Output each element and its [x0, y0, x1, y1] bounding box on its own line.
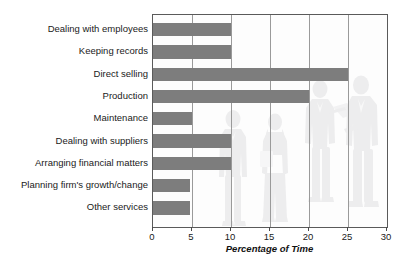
bar [153, 201, 190, 214]
tick-label-25: 25 [342, 231, 353, 242]
bar [153, 112, 192, 125]
category-axis-labels: Dealing with employeesKeeping recordsDir… [0, 14, 148, 226]
plot-area [152, 14, 388, 228]
bar [153, 23, 231, 36]
bar [153, 90, 309, 103]
bar-chart: Dealing with employeesKeeping recordsDir… [0, 0, 404, 259]
category-label: Other services [0, 201, 148, 212]
tick-label-20: 20 [303, 231, 314, 242]
category-label: Direct selling [0, 68, 148, 79]
category-label: Maintenance [0, 112, 148, 123]
tick-label-15: 15 [264, 231, 275, 242]
category-label: Production [0, 90, 148, 101]
x-axis-title: Percentage of Time [152, 243, 387, 254]
category-label: Planning firm's growth/change [0, 179, 148, 190]
bar [153, 157, 231, 170]
tick-label-10: 10 [225, 231, 236, 242]
category-label: Dealing with employees [0, 23, 148, 34]
category-label: Keeping records [0, 45, 148, 56]
bar-series [153, 15, 387, 227]
category-label: Dealing with suppliers [0, 135, 148, 146]
category-label: Arranging financial matters [0, 157, 148, 168]
tick-label-0: 0 [149, 231, 154, 242]
bar [153, 179, 190, 192]
bar [153, 134, 231, 147]
bar [153, 45, 231, 58]
bar [153, 68, 348, 81]
tick-label-5: 5 [188, 231, 193, 242]
tick-label-30: 30 [381, 231, 392, 242]
